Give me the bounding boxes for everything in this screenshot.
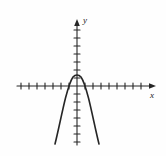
x-axis-label: x xyxy=(149,90,154,100)
x-axis-arrowhead xyxy=(149,83,156,89)
coordinate-plane-svg: x y xyxy=(0,0,166,156)
y-axis-arrowhead xyxy=(74,19,80,26)
y-axis-label: y xyxy=(82,15,87,25)
graph-figure: x y xyxy=(0,0,166,156)
